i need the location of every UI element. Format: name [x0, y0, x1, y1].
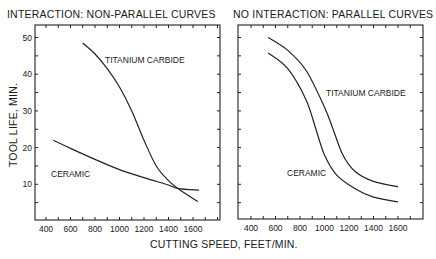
- x-tick-label: 400: [39, 224, 53, 234]
- series-ceramic: [53, 140, 199, 190]
- y-tick-label: 50: [23, 33, 33, 43]
- tic-label: TITANIUM CARBIDE: [105, 55, 185, 65]
- ceramic-label: CERAMIC: [51, 169, 90, 179]
- y-tick-label: 10: [23, 179, 33, 189]
- series-titanium-carbide: [268, 38, 398, 187]
- x-tick-label: 600: [63, 224, 77, 234]
- x-tick-label: 1000: [315, 223, 334, 233]
- x-tick-label: 1400: [159, 224, 178, 234]
- right-plot: 4006008001000120014001600TITANIUM CARBID…: [238, 25, 423, 233]
- x-tick-label: 1600: [389, 223, 408, 233]
- series-ceramic: [268, 53, 398, 202]
- x-tick-label: 1400: [364, 223, 383, 233]
- left-plot: 40060080010001200140016001020304050TITAN…: [23, 25, 220, 234]
- series-titanium-carbide: [83, 43, 198, 202]
- x-tick-label: 800: [88, 224, 102, 234]
- x-tick-label: 800: [293, 223, 307, 233]
- x-tick-label: 400: [244, 223, 258, 233]
- y-axis-label: TOOL LIFE, MIN.: [7, 83, 19, 167]
- x-tick-label: 1600: [184, 224, 203, 234]
- tic-label: TITANIUM CARBIDE: [326, 88, 406, 98]
- x-tick-label: 600: [268, 223, 282, 233]
- y-tick-label: 30: [23, 106, 33, 116]
- y-tick-label: 40: [23, 69, 33, 79]
- x-axis-label: CUTTING SPEED, FEET/MIN.: [150, 238, 298, 250]
- y-tick-label: 20: [23, 143, 33, 153]
- charts-canvas: 40060080010001200140016001020304050TITAN…: [0, 0, 436, 259]
- ceramic-label: CERAMIC: [287, 168, 326, 178]
- x-tick-label: 1000: [110, 224, 129, 234]
- x-tick-label: 1200: [135, 224, 154, 234]
- x-tick-label: 1200: [340, 223, 359, 233]
